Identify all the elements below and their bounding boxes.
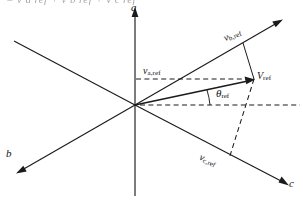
theta-ref-angle-arc (207, 90, 210, 105)
axis-line-b-negative-upper-left (14, 41, 135, 105)
axis-label-a: a (131, 2, 137, 13)
axis-arrow-b (16, 166, 27, 174)
axis-line-c (135, 105, 283, 182)
vector-diagram-svg (0, 0, 303, 200)
axis-line-c-negative-upper-right (135, 23, 277, 105)
axis-arrow-c (279, 176, 290, 185)
label-v-ref: Vref (257, 71, 271, 82)
label-v-ref-subscript: ref (263, 74, 271, 82)
axis-line-b (22, 105, 135, 170)
label-va-ref-subscript: a,ref (147, 69, 160, 77)
vector-v-ref (135, 81, 248, 105)
axis-label-c: c (289, 178, 294, 189)
projection-line-to-b-axis (243, 43, 254, 79)
projection-line-to-c-axis (229, 79, 254, 159)
axis-label-b: b (6, 148, 12, 159)
label-va-ref: va,ref (143, 66, 161, 77)
label-theta-subscript: ref (221, 92, 229, 100)
figure-root: = v a ref + v b ref + v c ref a b c Vref (0, 0, 303, 200)
label-theta-ref: θref (216, 88, 229, 100)
axis-arrow-upper-right (272, 20, 283, 28)
